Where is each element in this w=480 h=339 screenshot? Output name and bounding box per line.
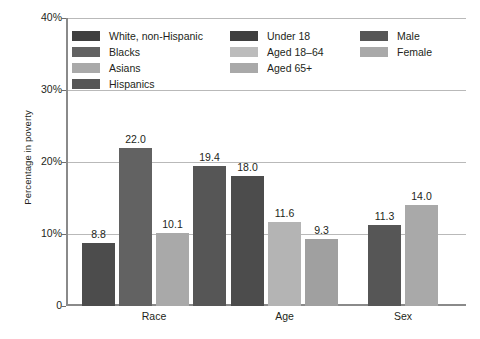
gridline bbox=[68, 18, 466, 19]
bar-value-label: 19.4 bbox=[185, 152, 234, 163]
bar-value-label: 11.3 bbox=[360, 211, 409, 222]
legend-item: Female bbox=[360, 44, 432, 60]
legend-swatch bbox=[72, 63, 100, 73]
legend-swatch bbox=[230, 31, 258, 41]
x-axis-label-age: Age bbox=[235, 310, 335, 322]
bar-value-label: 10.1 bbox=[148, 219, 197, 230]
bar bbox=[193, 166, 226, 306]
bar-value-label: 9.3 bbox=[297, 225, 346, 236]
legend-item: Asians bbox=[72, 60, 203, 76]
y-tick-label: 20% bbox=[22, 156, 62, 167]
poverty-bar-chart: Percentage in poverty 010%20%30%40% 8.82… bbox=[0, 0, 480, 339]
bar bbox=[368, 225, 401, 306]
y-tick-label: 30% bbox=[22, 84, 62, 95]
y-tick-label: 10% bbox=[22, 228, 62, 239]
y-tick-label: 0 bbox=[22, 300, 62, 311]
x-axis-label-race: Race bbox=[104, 310, 204, 322]
legend-label: Aged 18–64 bbox=[267, 47, 324, 58]
bar bbox=[305, 239, 338, 306]
legend-item: Blacks bbox=[72, 44, 203, 60]
bar bbox=[405, 205, 438, 306]
legend-swatch bbox=[360, 47, 388, 57]
legend-label: Hispanics bbox=[109, 79, 155, 90]
legend-label: Male bbox=[397, 31, 420, 42]
legend-label: Asians bbox=[109, 63, 141, 74]
legend-label: Aged 65+ bbox=[267, 63, 312, 74]
legend-item: Under 18 bbox=[230, 28, 324, 44]
bar bbox=[82, 243, 115, 306]
legend-swatch bbox=[72, 47, 100, 57]
legend-label: Female bbox=[397, 47, 432, 58]
y-tick-mark bbox=[61, 306, 66, 307]
bar-value-label: 11.6 bbox=[260, 208, 309, 219]
legend-item: Aged 18–64 bbox=[230, 44, 324, 60]
legend-label: Blacks bbox=[109, 47, 140, 58]
bar-value-label: 14.0 bbox=[397, 191, 446, 202]
legend-label: Under 18 bbox=[267, 31, 310, 42]
bar-value-label: 18.0 bbox=[223, 162, 272, 173]
legend-label: White, non-Hispanic bbox=[109, 31, 203, 42]
legend-swatch bbox=[360, 31, 388, 41]
legend-swatch bbox=[72, 31, 100, 41]
bar-value-label: 22.0 bbox=[111, 134, 160, 145]
chart-legend: White, non-HispanicBlacksAsiansHispanics… bbox=[72, 28, 452, 90]
legend-item: Hispanics bbox=[72, 76, 203, 92]
bar-value-label: 8.8 bbox=[74, 229, 123, 240]
y-axis-ticks: 010%20%30%40% bbox=[0, 0, 62, 339]
x-axis-label-sex: Sex bbox=[353, 310, 453, 322]
bar bbox=[231, 176, 264, 306]
y-tick-label: 40% bbox=[22, 12, 62, 23]
legend-column: MaleFemale bbox=[360, 28, 432, 60]
legend-item: Male bbox=[360, 28, 432, 44]
legend-column: Under 18Aged 18–64Aged 65+ bbox=[230, 28, 324, 76]
legend-item: White, non-Hispanic bbox=[72, 28, 203, 44]
legend-swatch bbox=[230, 63, 258, 73]
bar bbox=[156, 233, 189, 306]
legend-swatch bbox=[72, 79, 100, 89]
legend-item: Aged 65+ bbox=[230, 60, 324, 76]
legend-swatch bbox=[230, 47, 258, 57]
legend-column: White, non-HispanicBlacksAsiansHispanics bbox=[72, 28, 203, 92]
